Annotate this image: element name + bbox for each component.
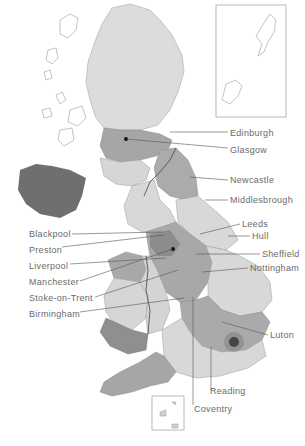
london-halo bbox=[224, 332, 244, 352]
northeast-england bbox=[154, 148, 198, 200]
channel-islands-inset bbox=[152, 396, 184, 430]
label-middlesbrough: Middlesbrough bbox=[230, 195, 293, 205]
label-hull: Hull bbox=[252, 231, 269, 241]
label-preston: Preston bbox=[29, 245, 62, 255]
scotland-lowlands bbox=[100, 158, 150, 186]
scotland-highlands bbox=[86, 4, 184, 130]
label-leeds: Leeds bbox=[242, 219, 268, 229]
shetland-outline bbox=[256, 14, 276, 56]
orkney-outline bbox=[222, 80, 242, 104]
label-coventry: Coventry bbox=[194, 404, 232, 414]
label-birmingham: Birmingham bbox=[29, 309, 80, 319]
label-manchester: Manchester bbox=[29, 277, 79, 287]
label-newcastle: Newcastle bbox=[230, 175, 274, 185]
inner-hebrides bbox=[58, 106, 86, 146]
label-sheffield: Sheffield bbox=[262, 249, 300, 259]
label-blackpool: Blackpool bbox=[29, 229, 71, 239]
label-nottingham: Nottingham bbox=[250, 263, 299, 273]
label-reading: Reading bbox=[210, 386, 246, 396]
label-glasgow: Glasgow bbox=[230, 145, 267, 155]
label-luton: Luton bbox=[270, 330, 294, 340]
label-edinburgh: Edinburgh bbox=[230, 128, 274, 138]
southwest-england bbox=[100, 352, 176, 396]
label-stoke-on-trent: Stoke-on-Trent bbox=[29, 293, 93, 303]
channel-islands-outline bbox=[160, 402, 178, 428]
northern-ireland bbox=[18, 164, 86, 218]
western-isles bbox=[42, 14, 78, 118]
label-liverpool: Liverpool bbox=[29, 261, 68, 271]
